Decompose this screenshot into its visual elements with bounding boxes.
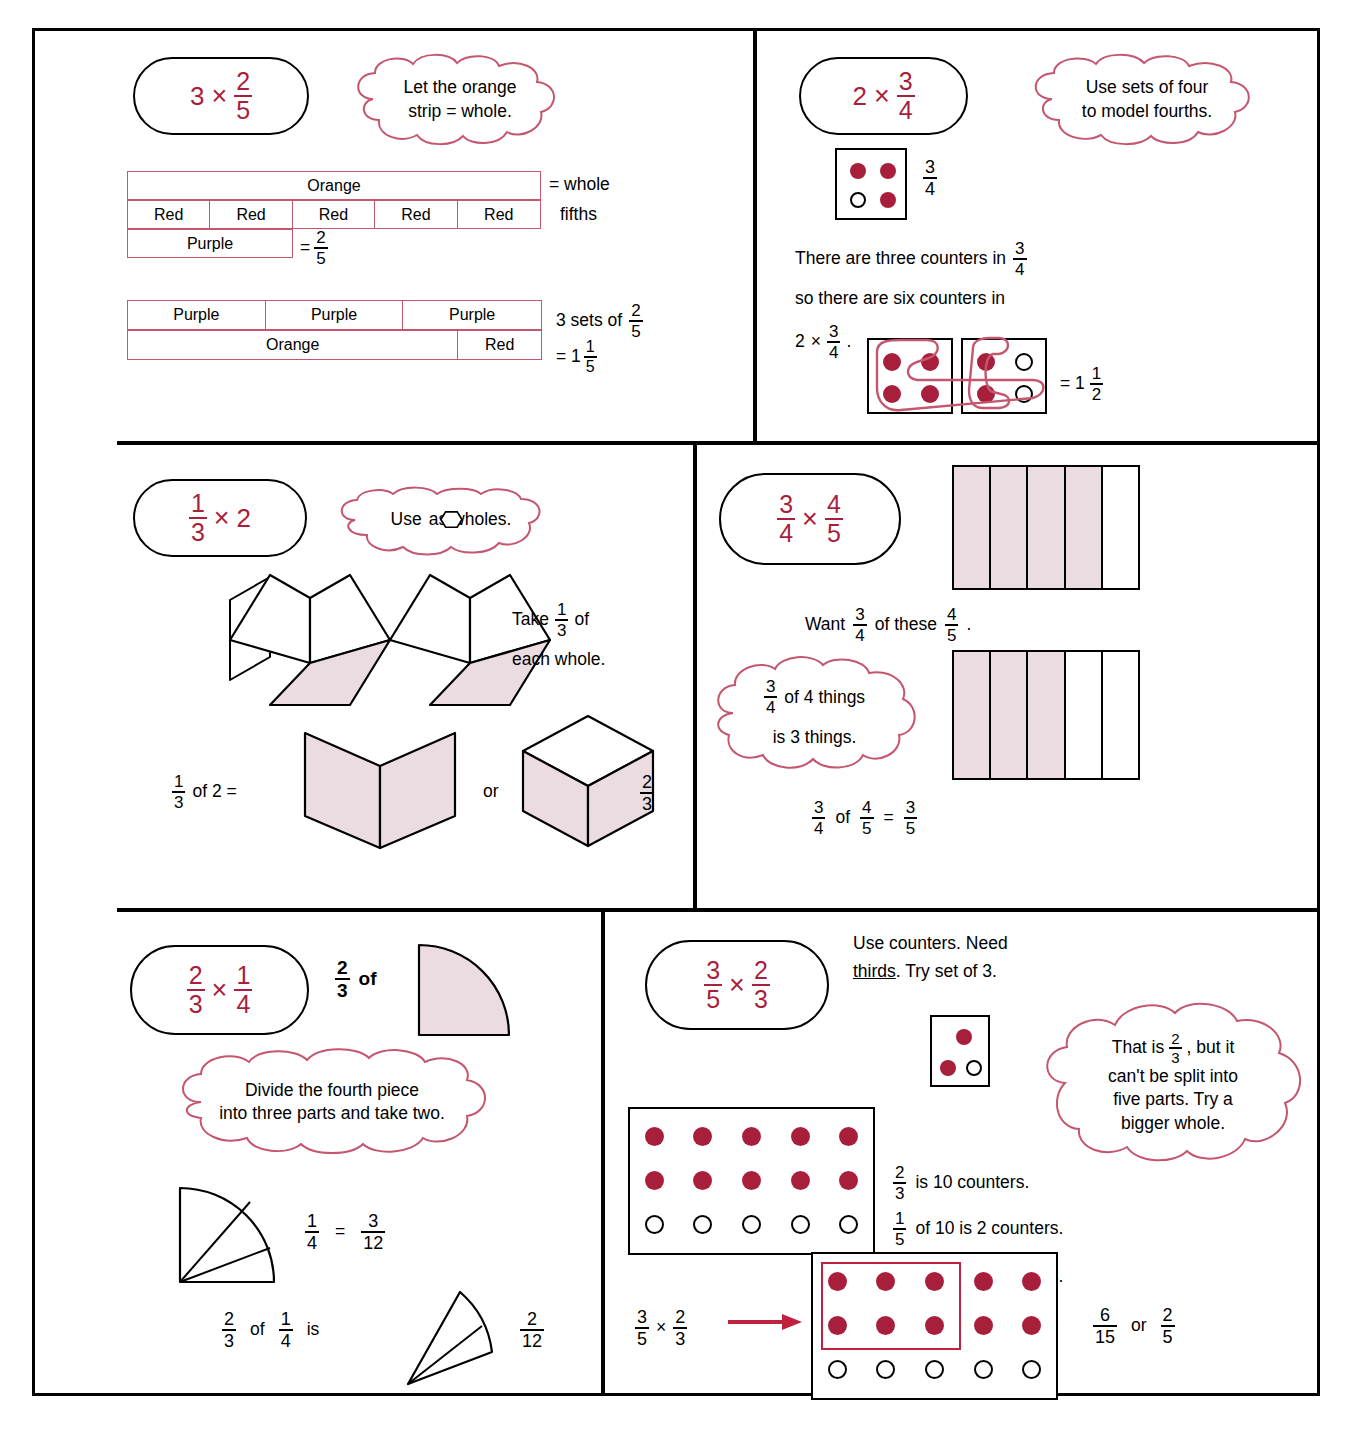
panel6-small-box — [930, 1015, 990, 1087]
counter-open — [876, 1360, 895, 1379]
panel2-line3-period: . — [846, 330, 851, 354]
counter-open — [850, 192, 866, 208]
panel5-eq1-fraction-1: 1 4 — [305, 1212, 319, 1252]
strip-cell-red-4: Red — [375, 201, 457, 228]
counter-open — [839, 1215, 858, 1234]
panel2-cloud-text: Use sets of four to model fourths. — [1068, 76, 1226, 122]
panel6-fact2-fraction: 1 5 — [893, 1210, 906, 1248]
counter-filled — [693, 1171, 712, 1190]
counter-filled — [1022, 1316, 1041, 1335]
panel1-purple-fraction: 2 5 — [314, 229, 327, 267]
panel-1over3x2: 1 3 × 2 Use as wholes. — [0, 443, 695, 910]
hexagon-icon — [377, 508, 526, 531]
counter-row-filled — [630, 1127, 873, 1146]
panel6-expr-fraction-2: 2 3 — [673, 1308, 687, 1348]
panel3-title-fraction: 1 3 — [189, 491, 207, 545]
counter-filled — [974, 1316, 993, 1335]
panel2-line3-fraction: 3 4 — [827, 323, 840, 361]
panel6-cloud-post-rest: can't be split into five parts. Try a bi… — [1108, 1065, 1238, 1135]
panel-3over4x4over5: 3 4 × 4 5 Want 3 4 of these 4 — [697, 443, 1320, 910]
panel3-bottom-of2: of 2 = — [192, 780, 236, 804]
counter-filled — [693, 1127, 712, 1146]
panel3-title-pill: 1 3 × 2 — [133, 479, 307, 557]
counter-filled — [925, 1316, 944, 1335]
panel5-eq2-fraction-2: 1 4 — [279, 1310, 293, 1350]
panel2-line2: so there are six counters in — [795, 287, 1005, 311]
panel5-quarter-circle-shaded — [414, 940, 514, 1040]
multiply-icon: × — [656, 1316, 666, 1340]
strip-cell-red-3: Red — [293, 201, 375, 228]
counter-open — [645, 1215, 664, 1234]
counter-filled — [1022, 1272, 1041, 1291]
counter-filled — [742, 1171, 761, 1190]
panel-3over5x2over3: 3 5 × 2 3 Use counters. Need thirds. Try… — [603, 910, 1320, 1396]
counter-filled — [791, 1171, 810, 1190]
panel3-bottom-prefix: 1 3 of 2 = — [172, 773, 237, 811]
panel2-box-fraction: 3 4 — [923, 158, 937, 198]
panel4-cloud-line2: is 3 things. — [773, 726, 857, 749]
panel3-take-line2: each whole. — [512, 648, 605, 672]
strip-cell-orange-2: Orange — [128, 331, 458, 359]
panel1-strip-orange-red: Orange Red — [127, 330, 542, 360]
panel4-title-fraction-1: 3 4 — [777, 492, 795, 546]
panel5-of-fraction: 2 3 — [335, 958, 350, 1000]
panel5-equation-2: 2 3 of 1 4 is — [222, 1310, 319, 1350]
counter-row-filled — [813, 1272, 1056, 1291]
panel6-answer-or: or — [1131, 1314, 1147, 1338]
panel1-note-fifths: fifths — [560, 203, 597, 227]
panel5-cloud-text: Divide the fourth piece into three parts… — [205, 1079, 459, 1125]
multiply-icon: × — [811, 330, 821, 354]
counter-filled — [791, 1127, 810, 1146]
panel6-fact1-text: is 10 counters. — [915, 1171, 1029, 1195]
panel-2over3x1over4: 2 3 × 1 4 2 3 of Divide the fourth piece… — [0, 910, 601, 1396]
counter-filled — [876, 1272, 895, 1291]
bar-cell-shaded — [991, 467, 1028, 588]
panel6-header-underlined: thirds — [853, 961, 896, 981]
panel3-title-whole: 2 — [237, 503, 251, 534]
panel-2x3over4: 2 × 3 4 Use sets of four to model fourth… — [757, 0, 1320, 443]
counter-row-filled — [630, 1171, 873, 1190]
panel2-line1-text: There are three counters in — [795, 247, 1006, 271]
strip-cell-red-1: Red — [128, 201, 210, 228]
counter-open — [966, 1060, 982, 1076]
counter-row-filled — [813, 1316, 1056, 1335]
counter-row-open — [813, 1360, 1056, 1379]
bar-cell-empty — [1103, 652, 1138, 778]
panel5-eq2-fraction-1: 2 3 — [222, 1310, 236, 1350]
panel3-take-line1: Take 1 3 of — [512, 601, 589, 639]
panel6-title-fraction-1: 3 5 — [704, 958, 722, 1012]
panel6-cloud-fraction: 2 3 — [1169, 1031, 1181, 1065]
panel6-cloud-pre: That is — [1112, 1036, 1165, 1059]
panel2-title-whole: 2 — [852, 81, 866, 112]
panel5-equation-1: 1 4 = 3 12 — [305, 1212, 385, 1252]
bar-cell-shaded — [954, 652, 991, 778]
equals-sign: = — [335, 1220, 345, 1244]
counter-filled — [645, 1171, 664, 1190]
bar-cell-shaded — [954, 467, 991, 588]
strip-cell-red-2: Red — [210, 201, 292, 228]
panel1-result-prefix: = 1 — [556, 345, 581, 369]
panel6-title-fraction-2: 2 3 — [752, 958, 770, 1012]
bar-cell-shaded — [991, 652, 1028, 778]
strip-cell-red-5: Red — [458, 201, 540, 228]
panel6-cloud: That is 2 3 , but it can't be split into… — [1033, 1003, 1313, 1163]
bar-cell-shaded — [1066, 467, 1103, 588]
panel6-fact-1: 2 3 is 10 counters. — [893, 1164, 1029, 1202]
panel1-result-line: = 1 1 5 — [556, 339, 597, 375]
panel2-line3: 2 × 3 4 . — [795, 323, 851, 361]
panel2-result-prefix: = 1 — [1060, 372, 1085, 396]
panel4-cloud-fraction: 3 4 — [764, 678, 777, 716]
panel4-eq-fraction-3: 3 5 — [904, 799, 917, 837]
panel3-cloud-text: Use as wholes. — [377, 508, 526, 531]
panel6-title-pill: 3 5 × 2 3 — [645, 940, 829, 1030]
panel5-of-word: of — [359, 968, 377, 991]
panel5-eq2-fraction-3: 2 12 — [520, 1310, 544, 1350]
panel2-counter-box — [835, 148, 907, 220]
panel4-want-mid: of these — [875, 613, 937, 637]
panel4-want-pre: Want — [805, 613, 845, 637]
panel5-of-label: 2 3 of — [335, 958, 377, 1000]
panel4-want-fraction-2: 4 5 — [945, 606, 958, 644]
panel4-want-line: Want 3 4 of these 4 5 . — [805, 606, 971, 644]
panel4-equation: 3 4 of 4 5 = 3 5 — [812, 799, 917, 837]
panel4-title-fraction-2: 4 5 — [825, 492, 843, 546]
